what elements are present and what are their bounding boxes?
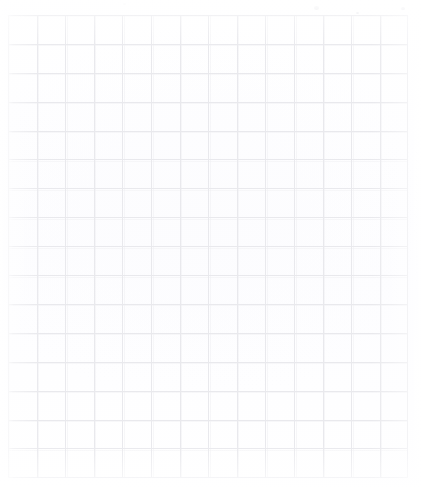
page-root	[0, 0, 422, 488]
grid-horizontal-lines	[8, 15, 408, 478]
graph-paper-grid	[8, 15, 408, 478]
